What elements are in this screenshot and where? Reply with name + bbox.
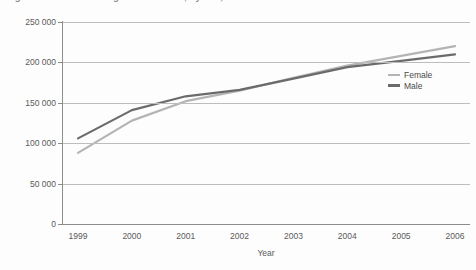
x-tick-label: 2003 bbox=[284, 231, 303, 241]
x-tick-label: 2001 bbox=[176, 231, 195, 241]
chart-legend: Female Male bbox=[388, 69, 432, 91]
x-tick-label: 2002 bbox=[230, 231, 249, 241]
y-tick-mark bbox=[58, 184, 63, 185]
y-tick-mark bbox=[58, 103, 63, 104]
legend-swatch-male bbox=[388, 84, 400, 87]
x-tick-label: 1999 bbox=[69, 231, 88, 241]
x-tick-label: 2000 bbox=[122, 231, 141, 241]
legend-label-female: Female bbox=[404, 70, 432, 80]
y-tick-mark bbox=[58, 22, 63, 23]
y-tick-mark bbox=[58, 224, 63, 225]
y-tick-mark bbox=[58, 62, 63, 63]
x-axis-title: Year bbox=[257, 248, 274, 258]
x-tick-label: 2006 bbox=[446, 231, 465, 241]
x-tick-label: 2004 bbox=[338, 231, 357, 241]
y-tick-mark bbox=[58, 143, 63, 144]
legend-swatch-female bbox=[388, 74, 400, 76]
legend-label-male: Male bbox=[404, 81, 422, 91]
x-tick-label: 2005 bbox=[392, 231, 411, 241]
legend-item-male: Male bbox=[388, 80, 432, 91]
x-axis-labels: 19992000200120022003200420052006 bbox=[0, 0, 476, 270]
line-chart: 050 000100 000150 000200 000250 000 1999… bbox=[0, 0, 476, 270]
legend-item-female: Female bbox=[388, 69, 432, 80]
